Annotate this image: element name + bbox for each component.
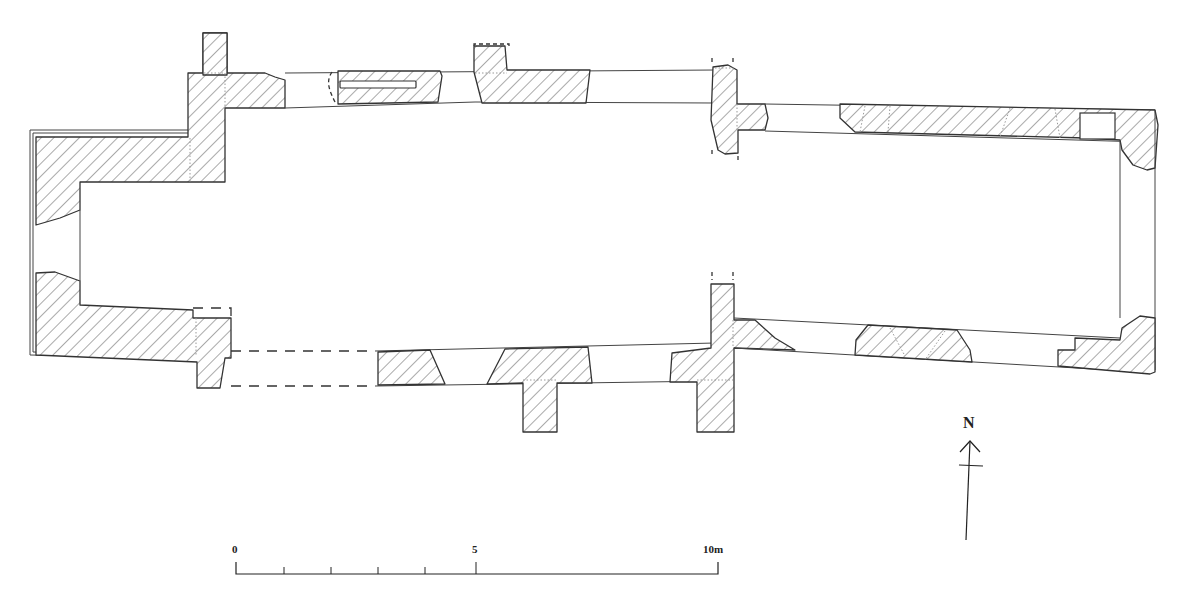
chancel-arch-north [711,65,768,154]
scale-label-5: 5 [472,543,478,555]
nave-south-wall-west [378,350,445,385]
west-wall-south [36,272,231,388]
north-arrow: N [959,414,983,540]
window-slot [340,81,416,88]
church-plan: N 0 5 10m [0,0,1183,601]
north-label: N [963,414,975,431]
nave-south-wall-door [487,347,592,432]
chancel-arch-south [670,284,795,432]
chancel-north-aumbry [1080,113,1115,139]
chancel-south-east-corner [1058,316,1155,374]
scale-label-10m: 10m [703,543,723,555]
scale-bar: 0 5 10m [232,543,723,574]
scale-label-0: 0 [232,543,238,555]
west-wall-north [36,33,285,225]
tower-buttress-north [203,33,227,75]
nave-north-wall-porch [474,46,590,103]
chancel-south-wall-mid [855,325,972,362]
